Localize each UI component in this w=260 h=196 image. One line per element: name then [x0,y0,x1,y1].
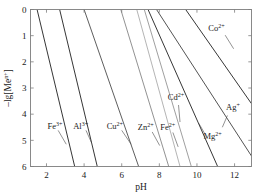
y-axis-title-text: –lg[Men+] [3,69,13,108]
curve-label-fe3+: Fe3+ [47,121,63,131]
x-axis-tick-labels: 24681012 [44,170,239,180]
leader-ag+ [222,115,227,127]
y-tick-label: 0 [22,5,27,15]
x-tick-label: 2 [44,170,49,180]
curve-fe3+ [37,10,75,167]
y-tick-label: 6 [22,162,27,172]
leader-co2+ [225,35,233,49]
x-axis-title: pH [135,182,147,192]
x-tick-label: 6 [119,170,124,180]
y-tick-label: 5 [22,136,27,146]
y-tick-label: 3 [22,83,27,93]
curve-label-ag+: Ag+ [226,102,240,112]
curve-label-cd2+: Cd2+ [168,92,185,102]
curve-zn2+ [121,10,169,167]
solubility-diagram-figure: 24681012 0123456 Fe3+Al3+Cu2+Zn2+Fe2+Cd2… [0,0,260,196]
curves-group [37,10,251,167]
curve-label-al3+: Al3+ [73,121,89,131]
curve-label-fe2+: Fe2+ [160,122,176,132]
x-tick-label: 4 [82,170,87,180]
y-tick-label: 2 [22,57,27,67]
curve-label-co2+: Co2+ [208,23,225,33]
curve-label-cu2+: Cu2+ [107,121,124,131]
y-axis-title: –lg[Men+] [3,69,13,108]
curve-label-zn2+: Zn2+ [138,122,154,132]
y-tick-label: 4 [22,109,27,119]
x-tick-label: 8 [157,170,162,180]
x-axis-ticks [46,10,234,167]
y-axis-ticks [31,10,252,167]
plot-svg: 24681012 0123456 Fe3+Al3+Cu2+Zn2+Fe2+Cd2… [0,0,260,196]
x-tick-label: 12 [230,170,239,180]
curve-labels-group: Fe3+Al3+Cu2+Zn2+Fe2+Cd2+Mg2+Ag+Co2+ [47,23,240,141]
curve-cd2+ [144,10,191,167]
y-axis-tick-labels: 0123456 [22,5,27,172]
x-tick-label: 10 [192,170,202,180]
leader-fe3+ [58,130,66,144]
y-tick-label: 1 [22,31,27,41]
plot-frame [31,10,252,167]
leader-cd2+ [179,105,181,122]
curve-label-mg2+: Mg2+ [204,131,223,141]
